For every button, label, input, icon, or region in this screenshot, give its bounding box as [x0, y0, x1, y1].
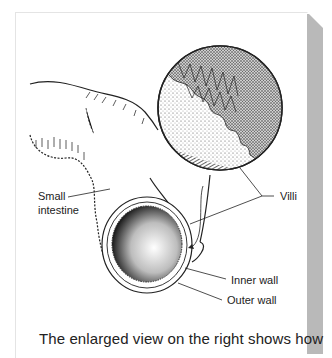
enlarged-view-circle	[150, 40, 290, 200]
intestine-opening	[102, 197, 192, 293]
label-small-intestine: Small intestine	[38, 189, 79, 217]
label-inner-wall: Inner wall	[231, 273, 278, 287]
label-small-intestine-line2: intestine	[38, 203, 79, 217]
label-small-intestine-line1: Small	[38, 189, 79, 203]
figure-caption: The enlarged view on the right shows how	[39, 330, 323, 347]
intestine-texture	[36, 92, 144, 160]
label-villi: Villi	[280, 189, 297, 203]
label-outer-wall: Outer wall	[227, 293, 277, 307]
